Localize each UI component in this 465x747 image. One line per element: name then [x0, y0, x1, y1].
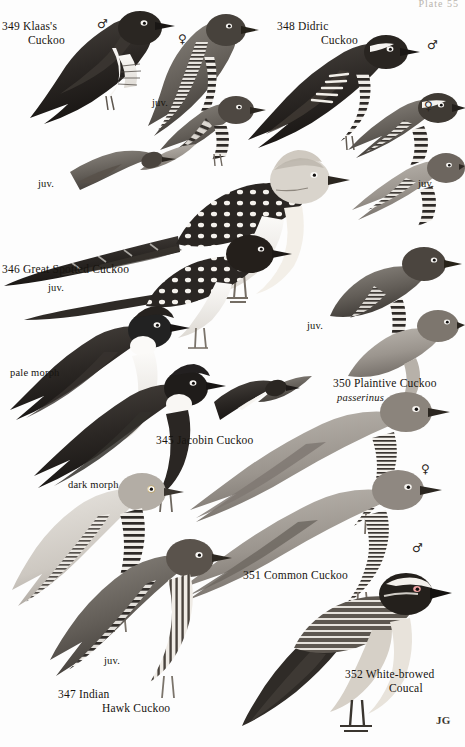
juvenile-label-great-spotted: juv. [48, 282, 64, 294]
species-name-line1: 352 White-browed [345, 668, 435, 680]
species-label-didric-cuckoo: 348 Didric Cuckoo [277, 20, 358, 47]
species-label-indian-hawk-cuckoo: 347 Indian Hawk Cuckoo [58, 688, 170, 715]
species-label-common-cuckoo: 351 Common Cuckoo [243, 569, 348, 583]
female-symbol-didric: ♀ [424, 99, 433, 113]
species-name-line2: Cuckoo [277, 34, 358, 48]
illustration-klaass-cuckoo-juvenile-flight [70, 144, 196, 190]
field-guide-plate: Plate 55 349 Klaas's Cuckoo 348 Didric C… [0, 0, 465, 747]
illustration-klaass-cuckoo-juvenile-perched [160, 96, 266, 166]
plate-illustrations [0, 0, 465, 747]
species-name-line2: Hawk Cuckoo [58, 702, 170, 716]
male-symbol-klaass: ♂ [97, 17, 108, 31]
male-symbol-common-cuckoo: ♂ [412, 541, 423, 555]
species-label-great-spotted-cuckoo: 346 Great Spotted Cuckoo [2, 263, 129, 277]
species-name-line2: Coucal [345, 682, 435, 696]
illustration-white-browed-coucal [242, 573, 452, 731]
illustration-common-cuckoo-male [182, 470, 442, 612]
species-label-klaass-cuckoo: 349 Klaas's Cuckoo [2, 20, 65, 47]
species-name-line1: 350 Plaintive Cuckoo [333, 377, 437, 389]
illustration-didric-cuckoo-male [248, 35, 420, 150]
species-name-line1: 351 Common Cuckoo [243, 569, 348, 581]
species-label-white-browed-coucal: 352 White-browed Coucal [345, 668, 435, 695]
species-name-line1: 349 Klaas's [2, 20, 57, 32]
species-name-line2: Cuckoo [2, 34, 65, 48]
species-name-line1: 348 Didric [277, 20, 329, 32]
illustration-plaintive-cuckoo-juvenile [330, 247, 462, 346]
juvenile-label-plaintive: juv. [307, 320, 323, 332]
species-label-plaintive-cuckoo: 350 Plaintive Cuckoo [333, 377, 437, 391]
female-symbol-klaass: ♀ [178, 32, 187, 46]
artist-signature: JG [436, 714, 450, 727]
illustration-klaass-cuckoo-female [148, 14, 259, 136]
illustration-indian-hawk-cuckoo-adult [12, 473, 184, 632]
illustration-jacobin-cuckoo-flight [214, 376, 312, 420]
illustration-great-spotted-cuckoo-adult [4, 150, 350, 302]
illustration-didric-cuckoo-female [348, 93, 465, 166]
juvenile-label-klaass-upper: juv. [152, 97, 168, 109]
juvenile-label-didric: juv. [418, 178, 434, 190]
species-label-jacobin-cuckoo: 345 Jacobin Cuckoo [156, 434, 254, 448]
species-name-line1: 345 Jacobin Cuckoo [156, 434, 254, 446]
illustration-common-cuckoo-female [190, 392, 450, 534]
female-symbol-common-cuckoo: ♀ [421, 462, 430, 476]
species-name-line1: 346 Great Spotted Cuckoo [2, 263, 129, 275]
plate-number: Plate 55 [419, 0, 460, 10]
illustration-great-spotted-cuckoo-juvenile [24, 235, 292, 348]
illustration-indian-hawk-cuckoo-juvenile [50, 539, 232, 698]
species-name-line1: 347 Indian [58, 688, 110, 700]
illustration-didric-cuckoo-juvenile [352, 153, 465, 226]
juvenile-label-klaass-lower: juv. [38, 178, 54, 190]
juvenile-label-indian-hawk: juv. [104, 655, 120, 667]
dark-morph-label: dark morph [68, 479, 119, 491]
male-symbol-didric: ♂ [427, 38, 438, 52]
pale-morph-label: pale morph [10, 367, 60, 379]
scientific-name-passerinus: passerinus [337, 392, 384, 404]
